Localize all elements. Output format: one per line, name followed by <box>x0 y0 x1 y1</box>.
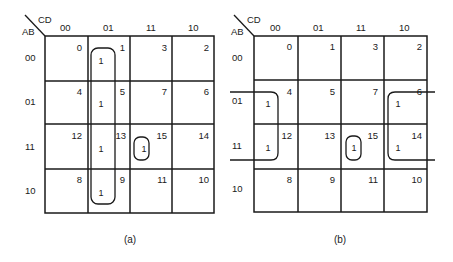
row-header: 11 <box>232 140 242 151</box>
corner-label-ab: AB <box>231 26 244 37</box>
cell-number: 12 <box>71 130 82 141</box>
row-header: 00 <box>232 52 243 63</box>
cell-number: 14 <box>198 130 209 141</box>
cell-number: 8 <box>77 174 82 185</box>
cell-number: 11 <box>157 174 167 185</box>
cell-number: 6 <box>204 86 209 97</box>
cell-number: 10 <box>411 174 422 185</box>
row-header: 01 <box>25 96 36 107</box>
cell-number: 5 <box>330 86 335 97</box>
col-header: 00 <box>270 22 281 33</box>
cell-number: 1 <box>120 42 125 53</box>
row-header: 10 <box>25 185 36 196</box>
row-header: 10 <box>232 183 243 194</box>
cell-value: 1 <box>265 99 270 109</box>
kmap-grid <box>45 36 214 213</box>
cell-number: 0 <box>287 41 292 52</box>
cell-number: 15 <box>156 130 167 141</box>
kmap-b: CD AB 00 01 11 10 00 01 11 10 0 1 3 2 4 … <box>230 14 435 245</box>
caption-b: (b) <box>334 234 346 245</box>
karnaugh-maps-figure: CD AB 00 01 11 10 00 01 11 10 0 1 3 2 4 <box>0 0 453 262</box>
cell-number: 1 <box>330 41 335 52</box>
corner-label-ab: AB <box>22 26 35 37</box>
cell-number: 9 <box>330 174 335 185</box>
cell-number: 15 <box>367 130 378 141</box>
cell-value: 1 <box>141 144 146 154</box>
cell-number: 8 <box>287 174 292 185</box>
cell-number: 12 <box>281 130 292 141</box>
cell-value: 1 <box>98 144 103 154</box>
cell-numbers: 0 1 3 2 4 5 7 6 12 13 15 14 8 9 11 10 <box>71 42 209 185</box>
cell-number: 7 <box>162 86 167 97</box>
cell-number: 2 <box>204 42 209 53</box>
column-01-group-loop <box>91 48 115 204</box>
cell-value: 1 <box>265 143 270 153</box>
col-header: 10 <box>399 22 410 33</box>
kmap-grid <box>254 36 427 212</box>
corner-label-cd: CD <box>247 14 261 25</box>
row-header: 01 <box>232 95 243 106</box>
col-header: 01 <box>313 22 324 33</box>
cell-number: 13 <box>115 130 126 141</box>
caption-a: (a) <box>124 234 136 245</box>
cell-numbers: 0 1 3 2 4 5 7 6 12 13 15 14 8 9 11 10 <box>281 41 422 185</box>
cell-number: 4 <box>77 86 82 97</box>
row-header: 00 <box>25 52 36 63</box>
cell-number: 2 <box>417 41 422 52</box>
cell-value: 1 <box>98 99 103 109</box>
cell-values: 1 1 1 1 1 <box>265 99 400 153</box>
row-header: 11 <box>25 141 35 152</box>
col-header: 10 <box>188 22 199 33</box>
cell-number: 9 <box>120 174 125 185</box>
col-header: 01 <box>103 22 114 33</box>
cell-number: 0 <box>77 42 82 53</box>
col-header: 11 <box>146 22 156 33</box>
cell-number: 13 <box>324 130 335 141</box>
cell-value: 1 <box>395 143 400 153</box>
cell-value: 1 <box>98 56 103 66</box>
cell-number: 14 <box>411 130 422 141</box>
cell-number: 11 <box>368 174 378 185</box>
cell-number: 4 <box>287 86 292 97</box>
cell-value: 1 <box>351 143 356 153</box>
kmap-a: CD AB 00 01 11 10 00 01 11 10 0 1 3 2 4 <box>22 14 214 245</box>
col-header: 00 <box>60 22 71 33</box>
cell-number: 10 <box>198 174 209 185</box>
cell-value: 1 <box>98 188 103 198</box>
cell-number: 3 <box>373 41 378 52</box>
cell-number: 5 <box>120 86 125 97</box>
col-header: 11 <box>356 22 366 33</box>
cell-value: 1 <box>395 99 400 109</box>
corner-label-cd: CD <box>38 14 52 25</box>
cell-number: 3 <box>162 42 167 53</box>
cell-number: 7 <box>373 86 378 97</box>
